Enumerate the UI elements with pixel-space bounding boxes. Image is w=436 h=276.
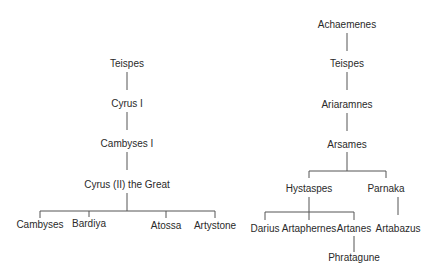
node-cambyses: Cambyses: [16, 220, 63, 230]
node-achaemenes: Achaemenes: [318, 20, 376, 30]
node-arsames: Arsames: [327, 140, 366, 150]
node-hystaspes: Hystaspes: [286, 184, 333, 194]
node-teispes-right: Teispes: [330, 59, 364, 69]
node-artaphernes: Artaphernes: [282, 224, 336, 234]
node-parnaka: Parnaka: [367, 184, 404, 194]
connector-lines: [0, 0, 436, 276]
family-tree-diagram: Teispes Cyrus I Cambyses I Cyrus (II) th…: [0, 0, 436, 276]
node-artystone: Artystone: [194, 221, 236, 231]
node-artabazus: Artabazus: [375, 224, 420, 234]
node-atossa: Atossa: [151, 221, 182, 231]
node-darius: Darius: [251, 224, 280, 234]
node-cyrus-i: Cyrus I: [111, 99, 143, 109]
node-bardiya: Bardiya: [72, 219, 106, 229]
node-teispes-left: Teispes: [110, 59, 144, 69]
node-cambyses-i: Cambyses I: [101, 139, 154, 149]
node-ariaramnes: Ariaramnes: [321, 100, 372, 110]
node-artanes: Artanes: [337, 224, 371, 234]
node-phratagune: Phratagune: [328, 253, 380, 263]
node-cyrus-ii-the-great: Cyrus (II) the Great: [84, 180, 170, 190]
